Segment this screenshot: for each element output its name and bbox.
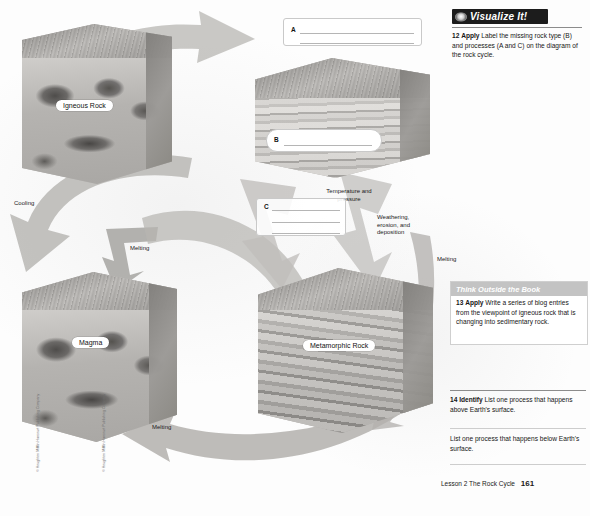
question-12-verb: Apply (461, 32, 479, 39)
igneous-rock-side-face (146, 24, 172, 184)
question-12: 12 Apply Label the missing rock type (B)… (452, 31, 584, 60)
textbook-page: Igneous Rock Magma Metamorphic Rock Cool… (0, 0, 590, 516)
blank-c-line-3[interactable] (272, 233, 340, 234)
identify-divider-top (450, 390, 586, 391)
blank-a-line-1[interactable] (300, 33, 414, 34)
question-13-verb: Apply (465, 299, 483, 306)
blank-b-line-1[interactable] (284, 145, 372, 146)
blank-c-line-1[interactable] (272, 210, 340, 211)
label-melting-left: Melting (130, 245, 149, 253)
label-melting-bottom: Melting (152, 424, 171, 432)
copyright-vertical-right: © Houghton Mifflin Harcourt Publishing C… (102, 394, 106, 472)
blank-letter-b: B (274, 136, 279, 143)
blank-answer-box-b[interactable]: B (266, 129, 382, 152)
question-14: 14 Identify List one process that happen… (450, 395, 588, 414)
question-14-number: 14 (450, 396, 457, 403)
label-magma: Magma (72, 337, 109, 348)
think-outside-the-book-panel: Think Outside the Book 13 Apply Write a … (450, 281, 588, 345)
blank-answer-box-a[interactable]: A (283, 18, 422, 46)
visualize-it-label: Visualize It! (470, 11, 527, 22)
label-metamorphic-rock: Metamorphic Rock (303, 340, 375, 351)
blank-c-line-2[interactable] (272, 222, 340, 223)
blank-letter-a: A (291, 26, 296, 33)
sedimentary-rock-block (255, 58, 430, 178)
label-melting-right: Melting (437, 256, 456, 264)
identify-answer-one-input[interactable] (450, 428, 586, 429)
label-igneous-rock: Igneous Rock (56, 100, 113, 111)
visualize-divider (452, 27, 582, 28)
question-13: 13 Apply Write a series of blog entries … (456, 298, 582, 327)
blank-letter-c: C (264, 203, 269, 210)
magma-rock-block (22, 272, 177, 442)
think-outside-the-book-header: Think Outside the Book (451, 282, 587, 296)
eye-icon (455, 12, 467, 21)
blank-answer-box-c[interactable]: C (256, 198, 346, 236)
footer-lesson-text: Lesson 2 The Rock Cycle (441, 480, 515, 487)
visualize-it-header: Visualize It! (452, 9, 548, 24)
label-weathering-erosion-deposition: Weathering, erosion, and deposition (377, 214, 427, 237)
question-14-prompt-two: List one process that happens below Eart… (450, 434, 588, 453)
footer-page-number: 161 (521, 479, 534, 488)
question-13-number: 13 (456, 299, 463, 306)
footer: Lesson 2 The Rock Cycle 161 (441, 479, 534, 488)
blank-a-line-2[interactable] (300, 43, 414, 44)
copyright-vertical-left: © Houghton Mifflin Harcourt Publishing C… (36, 394, 40, 472)
question-14-verb: Identify (459, 396, 482, 403)
identify-answer-two-input[interactable] (450, 464, 586, 465)
question-12-number: 12 (452, 32, 459, 39)
label-cooling: Cooling (14, 200, 34, 208)
